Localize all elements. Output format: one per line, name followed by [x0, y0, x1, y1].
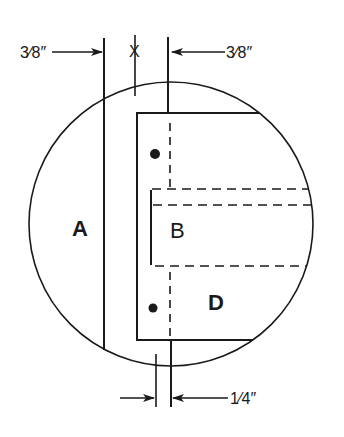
board-d	[137, 113, 320, 340]
dimension-top-right: 3⁄8″	[226, 44, 252, 61]
fastener-dot-upper	[150, 149, 160, 159]
dimension-top-left: 3⁄8″	[20, 44, 46, 61]
label-a: A	[72, 216, 88, 241]
dimension-bottom: 1⁄4″	[230, 390, 256, 407]
label-d: D	[208, 290, 224, 315]
label-b: B	[170, 218, 185, 243]
detail-diagram: X 3⁄8″ 3⁄8″ A B D 1⁄4″	[0, 0, 344, 437]
x-label: X	[129, 43, 140, 60]
fastener-dot-lower	[149, 304, 158, 313]
